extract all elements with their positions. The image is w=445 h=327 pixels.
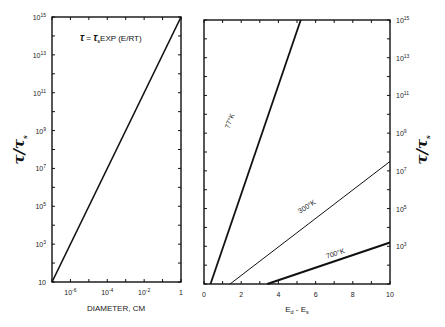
left-x-tick-label: 10-4	[101, 287, 113, 296]
curve-300k	[230, 161, 390, 284]
left-x-tick-label: 10-6	[64, 287, 76, 296]
right-x-tick-label: 4	[276, 291, 280, 298]
left-y-tick-label: 103	[35, 239, 46, 248]
right-x-tick-label: 10	[386, 291, 394, 298]
right-y-tick-label: 1013	[396, 53, 410, 62]
left-y-tick-label: 10	[38, 279, 46, 286]
left-y-tick-label: 1015	[33, 12, 47, 21]
left-y-tick-label: 1011	[33, 88, 46, 97]
left-y-tick-label: 105	[35, 201, 46, 210]
right-y-tick-label: 107	[396, 166, 407, 175]
right-y-tick-label: 1015	[396, 15, 410, 24]
formula-annotation: τ = τsEXP (E/RT)	[80, 32, 142, 44]
right-y-tick-label: 105	[396, 204, 407, 213]
left-y-tick-label: 1013	[33, 50, 47, 59]
right-y-tick-label: 109	[396, 128, 407, 137]
right-panel-energy: 024681010151013101110910710510377°K300°K…	[202, 15, 410, 298]
left-panel-diameter: 10-610-410-2110151013101110910710510310	[33, 12, 183, 296]
left-x-tick-label: 1	[179, 289, 183, 296]
right-x-tick-label: 0	[202, 291, 206, 298]
diameter-curve	[52, 17, 181, 282]
chart-canvas: 10-610-410-2110151013101110910710510310 …	[0, 0, 445, 327]
chart-figure: 10-610-410-2110151013101110910710510310 …	[0, 0, 445, 327]
curve-77k	[211, 20, 301, 284]
right-x-tick-label: 8	[351, 291, 355, 298]
curve-label-77k: 77°K	[224, 112, 236, 129]
right-y-tick-label: 103	[396, 241, 407, 250]
right-x-tick-label: 6	[314, 291, 318, 298]
right-y-tick-label: 1011	[396, 90, 409, 99]
right-y-axis-title: τ/τs	[413, 135, 431, 165]
right-x-tick-label: 2	[239, 291, 243, 298]
left-y-tick-label: 107	[35, 163, 46, 172]
right-plot-frame	[204, 20, 390, 284]
svg-text:τ/τs: τ/τs	[413, 135, 431, 165]
curve-label-300k: 300°K	[297, 198, 317, 214]
svg-text:τ/τs: τ/τs	[10, 135, 28, 165]
right-x-axis-title: Ed - Es	[285, 305, 309, 315]
curve-700k	[267, 243, 390, 284]
left-x-axis-title: DIAMETER, CM	[87, 304, 146, 313]
left-y-tick-label: 109	[35, 126, 46, 135]
left-y-axis-title: τ/τs	[10, 135, 28, 165]
left-x-tick-label: 10-2	[138, 287, 150, 296]
